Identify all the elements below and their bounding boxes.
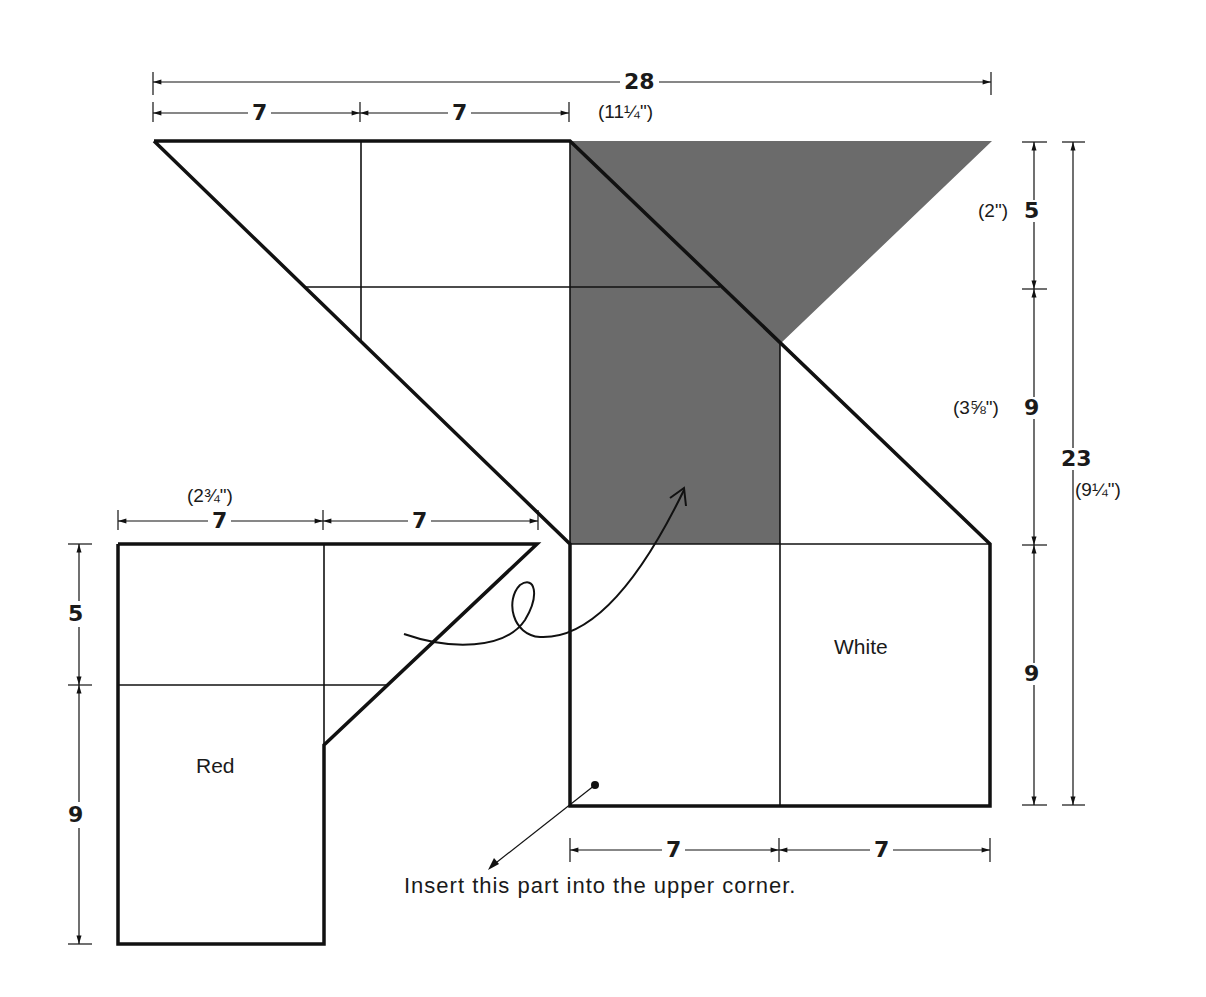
overall-height-value: 23 (1057, 448, 1096, 470)
red-top-segment-1-value: 7 (208, 510, 231, 532)
top-segment-2-value: 7 (448, 102, 471, 124)
top-dimension-lines (153, 72, 991, 122)
overall-width-inches: (11¼") (598, 102, 653, 121)
right-top-inches: (2") (978, 201, 1008, 220)
caption-text: Insert this part into the upper corner. (404, 875, 796, 897)
right-top-value: 5 (1022, 200, 1041, 222)
right-dimension-lines (1022, 142, 1085, 805)
bottom-dimension-lines (570, 838, 990, 862)
red-left-top-value: 5 (66, 601, 85, 627)
bottom-segment-1-value: 7 (662, 839, 685, 861)
red-top-segment-1-inches: (2¾") (187, 486, 233, 505)
pattern-diagram: 28 (11¼") 7 7 (2") 5 (3⅝") 9 9 23 (9¼") … (0, 0, 1206, 997)
red-left-bottom-value: 9 (66, 802, 85, 828)
right-bottom-value: 9 (1022, 663, 1041, 685)
diagram-canvas (0, 0, 1206, 997)
overall-height-inches: (9¼") (1075, 480, 1121, 499)
bottom-segment-2-value: 7 (870, 839, 893, 861)
red-top-segment-2-value: 7 (408, 510, 431, 532)
right-middle-inches: (3⅝") (953, 398, 999, 417)
right-middle-value: 9 (1022, 397, 1041, 419)
white-piece-label: White (834, 636, 888, 657)
red-piece-label: Red (196, 755, 235, 776)
caption-leader (488, 781, 599, 870)
top-segment-1-value: 7 (248, 102, 271, 124)
overall-width-value: 28 (620, 71, 659, 93)
